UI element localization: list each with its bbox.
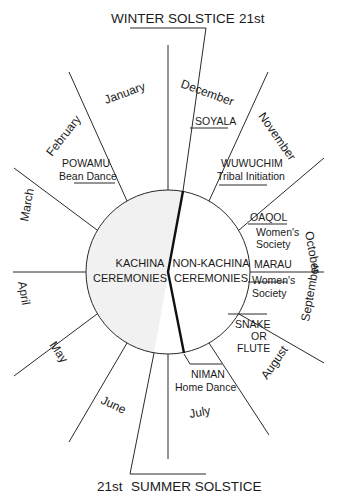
svg-text:POWAMU: POWAMU (62, 157, 110, 169)
svg-text:Women's: Women's (256, 226, 299, 238)
summer-solstice-label: SUMMER SOLSTICE (131, 479, 262, 494)
svg-text:OR: OR (251, 330, 267, 342)
month-july: July (188, 403, 211, 420)
month-february: February (43, 112, 84, 158)
svg-text:Women's: Women's (252, 274, 295, 286)
month-march: March (17, 187, 37, 222)
month-may: May (47, 339, 71, 366)
summer-solstice-day: 21st (97, 479, 123, 494)
kachina-label-2: CEREMONIES (93, 272, 167, 284)
ceremony-oaqol: OAQOL Women's Society (248, 211, 299, 250)
svg-text:Society: Society (256, 238, 291, 250)
svg-text:OAQOL: OAQOL (250, 211, 288, 223)
ceremony-marau: MARAU Women's Society (248, 258, 295, 299)
winter-solstice-day: 21st (239, 11, 265, 26)
svg-text:Society: Society (252, 287, 287, 299)
ceremony-niman: NIMAN Home Dance (175, 354, 236, 393)
svg-text:Bean Dance: Bean Dance (59, 170, 117, 182)
svg-text:Tribal Initiation: Tribal Initiation (217, 170, 285, 182)
month-june: June (99, 393, 129, 417)
month-december: December (179, 77, 236, 109)
svg-text:MARAU: MARAU (254, 258, 292, 270)
svg-text:WUWUCHIM: WUWUCHIM (221, 157, 283, 169)
svg-text:NIMAN: NIMAN (191, 368, 225, 380)
non-kachina-label-1: NON-KACHINA (172, 257, 250, 269)
non-kachina-label-2: CEREMONIES (174, 272, 248, 284)
ceremonial-calendar-diagram: WINTER SOLSTICE 21st 21st SUMMER SOLSTIC… (0, 0, 337, 496)
ceremony-powamu: POWAMU Bean Dance (59, 157, 117, 183)
kachina-label-1: KACHINA (116, 257, 166, 269)
month-october: October (302, 230, 323, 274)
svg-text:Home Dance: Home Dance (175, 381, 236, 393)
ceremony-snake-or-flute: SNAKE OR FLUTE (228, 314, 271, 354)
winter-solstice-label: WINTER SOLSTICE (111, 11, 235, 26)
svg-text:SNAKE: SNAKE (235, 318, 271, 330)
svg-text:FLUTE: FLUTE (237, 342, 270, 354)
ceremony-soyala: SOYALA (190, 115, 236, 128)
month-april: April (15, 280, 33, 306)
month-january: January (102, 79, 147, 107)
svg-text:SOYALA: SOYALA (195, 115, 236, 127)
month-november: November (256, 110, 299, 163)
ceremony-wuwuchim: WUWUCHIM Tribal Initiation (217, 157, 285, 185)
